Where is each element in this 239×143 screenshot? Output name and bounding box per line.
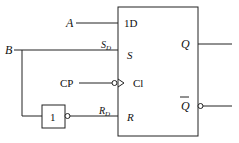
pin-qbar-label: Q [181,99,190,113]
input-b-label: B [5,43,13,57]
pin-q-label: Q [181,37,190,51]
pin-d-label: 1D [124,17,138,29]
input-cp-label: CP [60,77,73,89]
b-branch-wire [22,50,42,116]
clock-edge-icon [118,79,124,87]
pin-r-label: R [126,111,134,123]
input-a-label: A [65,16,74,30]
clock-inversion-bubble [112,81,117,86]
pin-s-label: S [127,49,133,61]
not-gate-bubble [65,114,70,119]
flip-flop-diagram: A 1D B SD S 1 RD R CP Cl Q Q [0,0,239,143]
pin-cl-label: Cl [133,77,143,89]
qbar-bubble [198,104,203,109]
not-gate-label: 1 [50,111,56,123]
